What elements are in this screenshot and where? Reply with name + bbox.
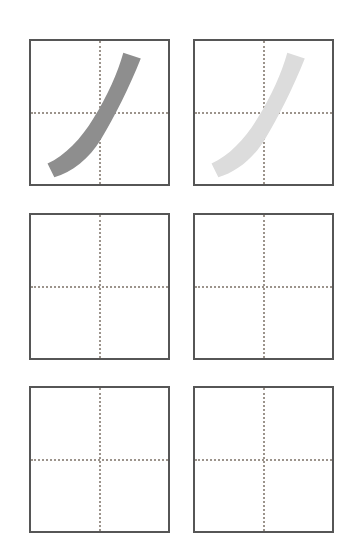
vertical-guide-line: [263, 388, 265, 531]
vertical-guide-line: [99, 388, 101, 531]
vertical-guide-line: [263, 215, 265, 358]
grid-row: [0, 213, 354, 360]
practice-cell-r3c1[interactable]: [29, 386, 170, 533]
stroke-pie-light: [195, 41, 332, 184]
stroke-practice-worksheet: [0, 0, 354, 557]
horizontal-guide-line: [31, 459, 168, 461]
horizontal-guide-line: [31, 286, 168, 288]
vertical-guide-line: [99, 215, 101, 358]
horizontal-guide-line: [195, 459, 332, 461]
practice-cell-r1c2[interactable]: [193, 39, 334, 186]
horizontal-guide-line: [195, 286, 332, 288]
grid-row: [0, 386, 354, 533]
stroke-pie-path: [212, 53, 305, 178]
practice-cell-r1c1[interactable]: [29, 39, 170, 186]
grid-row: [0, 39, 354, 186]
practice-cell-r2c1[interactable]: [29, 213, 170, 360]
practice-cell-r2c2[interactable]: [193, 213, 334, 360]
practice-cell-r3c2[interactable]: [193, 386, 334, 533]
stroke-pie-path: [48, 53, 141, 178]
stroke-pie-dark: [31, 41, 168, 184]
